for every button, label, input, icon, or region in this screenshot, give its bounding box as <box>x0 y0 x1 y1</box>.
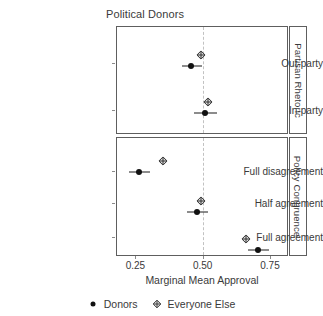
legend-item-donors[interactable]: Donors <box>88 298 138 310</box>
y-tick-in-party <box>112 110 115 111</box>
axis-label-half-agreement: Half agreement <box>211 198 323 209</box>
y-tick-full-agreement <box>112 237 115 238</box>
page-title: Political Donors <box>0 8 290 20</box>
legend-label-everyone-else: Everyone Else <box>168 298 236 310</box>
x-tick-label: 0.25 <box>126 260 145 271</box>
legend-item-everyone-else[interactable]: Everyone Else <box>152 298 236 310</box>
data-point-donors-half-agreement <box>194 209 200 215</box>
x-axis-title: Marginal Mean Approval <box>116 274 288 286</box>
chart-legend: Donors Everyone Else <box>0 298 323 310</box>
data-point-donors-full-agreement <box>255 247 261 253</box>
axis-label-full-disagreement: Full disagreement <box>211 166 323 177</box>
data-point-everyone-else-full-disagreement <box>158 152 167 161</box>
y-tick-out-party <box>112 63 115 64</box>
diamond-cross-icon <box>152 299 163 310</box>
reference-line <box>203 27 204 133</box>
data-point-everyone-else-out-party <box>197 46 206 55</box>
facet-strip-partisan-rhetoric: Partisan Rhetoric <box>289 26 307 134</box>
data-point-everyone-else-half-agreement <box>197 192 206 201</box>
data-point-donors-in-party <box>202 110 208 116</box>
x-tick-label: 0.75 <box>260 260 279 271</box>
filled-circle-icon <box>88 299 99 310</box>
x-tick-mark <box>135 256 136 259</box>
data-point-donors-full-disagreement <box>136 169 142 175</box>
chart-figure: Political Donors Partisan Rhet <box>0 0 323 316</box>
axis-label-full-agreement: Full agreement <box>211 232 323 243</box>
axis-label-in-party: In-party <box>211 105 323 116</box>
x-tick-mark <box>203 256 204 259</box>
y-tick-full-disagreement <box>112 171 115 172</box>
x-tick-mark <box>270 256 271 259</box>
y-tick-half-agreement <box>112 203 115 204</box>
data-point-donors-out-party <box>188 63 194 69</box>
data-point-everyone-else-in-party <box>204 93 213 102</box>
axis-label-out-party: Out-party <box>211 58 323 69</box>
x-tick-label: 0.50 <box>193 260 212 271</box>
legend-label-donors: Donors <box>104 298 138 310</box>
facet-panel-partisan-rhetoric <box>116 26 288 134</box>
